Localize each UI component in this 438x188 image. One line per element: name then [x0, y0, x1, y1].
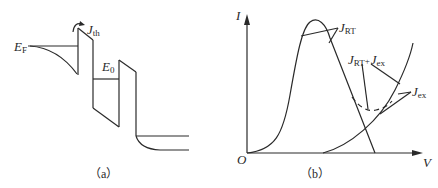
- y-axis-label: I: [235, 8, 241, 23]
- total-leader-1: [362, 64, 368, 109]
- total-current-label: JRT+Jex: [348, 52, 386, 68]
- panel-a-caption: （a）: [89, 167, 118, 181]
- fermi-level-label: EF: [13, 39, 27, 55]
- leader-lines: [301, 28, 411, 114]
- jrt-leader-1: [301, 28, 338, 36]
- resonant-level-label: E0: [101, 59, 115, 75]
- jex-leader-2: [380, 92, 411, 114]
- barrier2-top: [119, 60, 136, 72]
- well-bottom: [93, 108, 119, 127]
- panel-b-caption: （b）: [300, 167, 330, 181]
- y-axis-arrow: [244, 14, 250, 25]
- diagram-canvas: EF Jth E0 （a） I V O JRT JRT+Jex Jex （b）: [0, 0, 438, 188]
- total-leader-2: [371, 64, 400, 84]
- collector-band-bending: [136, 136, 189, 150]
- origin-label: O: [237, 152, 247, 167]
- x-axis-label: V: [423, 155, 433, 170]
- jrt-label: JRT: [339, 20, 356, 36]
- emitter-band-bending: [30, 46, 77, 74]
- band-diagram: [28, 21, 189, 150]
- thermionic-current-label: Jth: [87, 22, 100, 38]
- x-axis-arrow: [412, 150, 423, 156]
- jex-label: Jex: [412, 84, 427, 100]
- thermionic-arrow-head: [79, 21, 85, 26]
- jrt-curve: [247, 20, 375, 153]
